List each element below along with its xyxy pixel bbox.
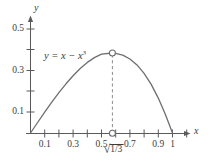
x-axis-critical-point-marker (109, 130, 115, 136)
x-tick-label-1: 1 (170, 140, 175, 150)
x-tick-label-0-7: 0.7 (124, 140, 136, 150)
curve-equation-text: y = x − x3 (44, 50, 86, 61)
radicand-value: 1/3 (109, 144, 123, 155)
critical-point-annotation: √1/3 (103, 143, 124, 155)
y-tick-label-0-5: 0.5 (1, 24, 24, 34)
y-tick-label-0-1: 0.1 (1, 107, 24, 117)
x-tick-label-0-3: 0.3 (67, 140, 79, 150)
maximum-point-marker (109, 50, 115, 56)
y-axis (28, 16, 33, 134)
y-axis-label: y (34, 3, 38, 13)
function-curve (31, 53, 173, 133)
x-tick-label-0-1: 0.1 (39, 140, 51, 150)
x-tick-label-0-9: 0.9 (152, 140, 164, 150)
y-tick-label-0-3: 0.3 (1, 66, 24, 76)
curve-equation-label: y = x − x3 (44, 51, 86, 62)
y-axis-arrowhead (28, 16, 33, 23)
x-axis-label: x (194, 126, 198, 136)
x-axis-arrowhead (184, 131, 191, 136)
radical-group: √1/3 (103, 143, 124, 155)
x-axis (26, 131, 191, 136)
function-plot-figure: 0.5 0.3 0.1 0.1 0.3 0.5 0.7 0.9 1 y x y … (0, 0, 214, 168)
